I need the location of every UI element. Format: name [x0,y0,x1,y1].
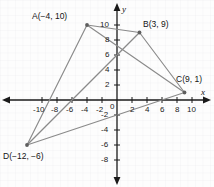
x-tick-label-4: 4 [145,106,149,114]
x-axis-label: x [201,88,205,97]
coordinate-plane-figure: -10 -8 -6 -4 -2 0 2 4 6 8 10 10 8 6 4 2 … [0,0,214,187]
x-tick-label--4: -4 [81,106,88,114]
point-b-marker [138,31,142,35]
point-a-marker [85,23,89,27]
x-tick-label-2: 2 [130,106,134,114]
point-d-marker [25,143,29,147]
y-tick-label-4: 4 [105,66,109,74]
x-tick-label--8: -8 [51,106,58,114]
point-c-label: C(9, 1) [176,75,202,84]
point-d-label: D(−12, −6) [3,152,44,161]
y-tick-label--4: -4 [101,126,108,134]
x-tick-label-6: 6 [160,106,164,114]
y-tick-label--8: -8 [101,156,108,164]
x-tick-label-8: 8 [175,106,179,114]
y-axis-label: y [122,5,126,14]
y-tick-label--2: -2 [101,111,108,119]
point-a-label: A(−4, 10) [32,12,67,21]
y-tick-label-10: 10 [100,21,109,29]
x-tick-label--10: -10 [33,106,45,114]
y-tick-label-6: 6 [105,51,109,59]
y-tick-label-2: 2 [105,81,109,89]
x-tick-label--6: -6 [66,106,73,114]
y-tick-label-8: 8 [105,36,109,44]
point-c-marker [183,91,187,95]
point-b-label: B(3, 9) [143,20,169,29]
x-tick-label-10: 10 [187,106,196,114]
y-tick-label--6: -6 [101,141,108,149]
origin-label: 0 [110,103,114,111]
